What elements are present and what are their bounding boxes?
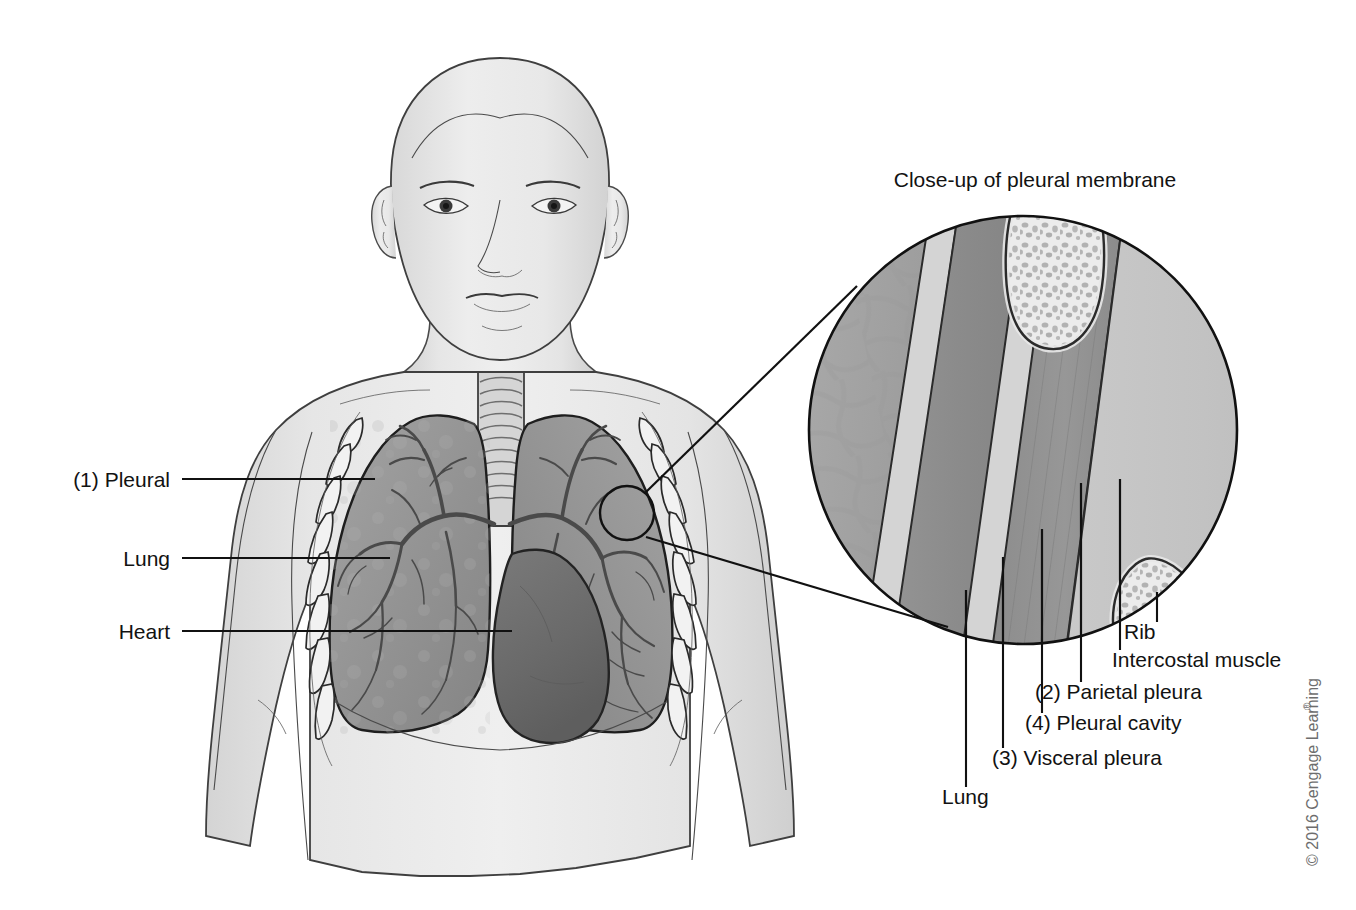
torso-illustration (206, 58, 794, 876)
iris-highlight-left (443, 203, 449, 209)
right-label-texts: Rib Intercostal muscle (2) Parietal pleu… (942, 620, 1281, 808)
label-intercostal-muscle: Intercostal muscle (1112, 648, 1281, 671)
anatomy-figure: Close-up of pleural membrane (1) Pleural… (0, 0, 1356, 910)
head-shape (391, 58, 609, 360)
closeup-title: Close-up of pleural membrane (894, 168, 1176, 191)
label-lung-closeup: Lung (942, 785, 989, 808)
label-parietal-pleura: (2) Parietal pleura (1035, 680, 1202, 703)
label-rib: Rib (1124, 620, 1156, 643)
iris-highlight-right (551, 203, 557, 209)
lung-right-mottle (330, 412, 490, 734)
figure-canvas: Close-up of pleural membrane (1) Pleural… (0, 0, 1356, 910)
label-pleural-cavity: (4) Pleural cavity (1025, 711, 1182, 734)
label-lung: Lung (123, 547, 170, 570)
left-label-texts: (1) Pleural Lung Heart (73, 468, 170, 643)
label-heart: Heart (119, 620, 171, 643)
label-pleural: (1) Pleural (73, 468, 170, 491)
copyright-notice: © 2016 Cengage Learning ® (1302, 678, 1321, 866)
label-visceral-pleura: (3) Visceral pleura (992, 746, 1162, 769)
copyright-registered-mark: ® (1302, 702, 1313, 710)
closeup-contents (740, 162, 1300, 700)
